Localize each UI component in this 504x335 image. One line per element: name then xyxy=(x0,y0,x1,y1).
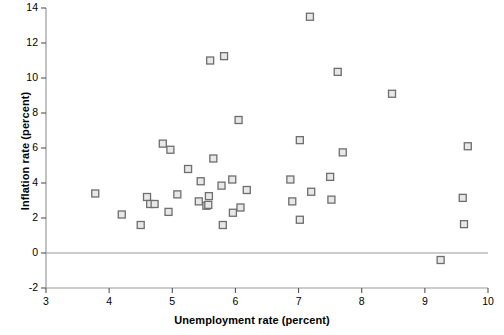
data-point-marker xyxy=(92,190,99,197)
data-point-marker xyxy=(151,201,158,208)
data-point-marker xyxy=(328,196,335,203)
x-axis-title: Unemployment rate (percent) xyxy=(0,314,504,326)
data-point-marker xyxy=(296,216,303,223)
data-point-marker xyxy=(235,117,242,124)
x-tick-label: 6 xyxy=(223,295,247,307)
scatter-plot: Unemployment rate (percent) Inflation ra… xyxy=(0,0,504,335)
data-point-marker xyxy=(334,68,341,75)
data-point-marker xyxy=(389,90,396,97)
plot-canvas xyxy=(0,0,504,335)
x-tick-label: 3 xyxy=(34,295,58,307)
data-point-marker xyxy=(207,57,214,64)
data-point-marker xyxy=(229,176,236,183)
data-point-marker xyxy=(174,191,181,198)
y-tick-label: 14 xyxy=(10,1,38,13)
x-tick-label: 4 xyxy=(97,295,121,307)
data-point-marker xyxy=(219,222,226,229)
data-point-marker xyxy=(229,209,236,216)
data-point-marker xyxy=(308,188,315,195)
data-point-marker xyxy=(205,201,212,208)
data-point-marker xyxy=(464,143,471,150)
data-point-marker xyxy=(165,208,172,215)
data-point-marker xyxy=(287,176,294,183)
data-point-marker xyxy=(185,166,192,173)
data-point-marker xyxy=(289,198,296,205)
data-point-marker xyxy=(237,204,244,211)
y-tick-label: 2 xyxy=(10,211,38,223)
x-tick-label: 9 xyxy=(413,295,437,307)
x-tick-label: 5 xyxy=(160,295,184,307)
data-point-marker xyxy=(195,198,202,205)
y-tick-label: 10 xyxy=(10,71,38,83)
data-point-marker xyxy=(459,194,466,201)
data-point-marker xyxy=(218,182,225,189)
data-point-marker xyxy=(137,222,144,229)
data-point-marker xyxy=(167,146,174,153)
data-point-marker xyxy=(205,193,212,200)
data-point-marker xyxy=(221,53,228,60)
data-point-marker xyxy=(296,137,303,144)
y-tick-label: 0 xyxy=(10,246,38,258)
data-point-marker xyxy=(159,140,166,147)
x-tick-label: 7 xyxy=(287,295,311,307)
data-point-marker xyxy=(306,13,313,20)
data-point-marker xyxy=(144,194,151,201)
x-tick-label: 10 xyxy=(476,295,500,307)
data-point-marker xyxy=(461,221,468,228)
y-tick-label: 12 xyxy=(10,36,38,48)
y-tick-label: 8 xyxy=(10,106,38,118)
x-tick-label: 8 xyxy=(350,295,374,307)
data-point-marker xyxy=(243,187,250,194)
data-point-marker xyxy=(327,173,334,180)
data-point-marker xyxy=(339,149,346,156)
data-point-marker xyxy=(197,178,204,185)
data-point-marker xyxy=(437,257,444,264)
y-tick-label: 4 xyxy=(10,176,38,188)
y-tick-label: 6 xyxy=(10,141,38,153)
data-point-marker xyxy=(118,211,125,218)
y-tick-label: -2 xyxy=(10,281,38,293)
data-point-marker xyxy=(210,155,217,162)
